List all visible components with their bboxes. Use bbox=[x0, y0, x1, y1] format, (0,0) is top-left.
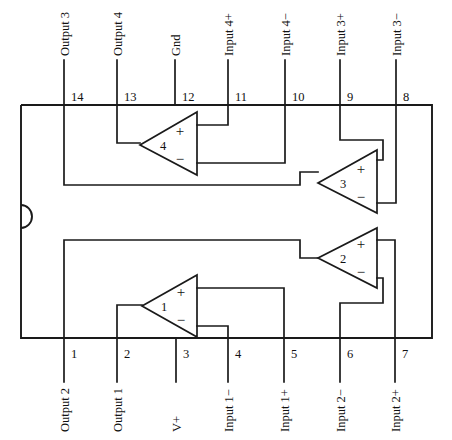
top-pin-numbers: 14 13 12 11 10 9 8 bbox=[71, 90, 409, 104]
schematic-canvas: + − 4 + − 3 + − 2 + − 1 14 13 1 bbox=[0, 0, 452, 440]
wire-pin8-to-amp3-minus bbox=[377, 105, 396, 203]
connection-diagram: + − 4 + − 3 + − 2 + − 1 14 13 1 bbox=[0, 0, 452, 440]
amp4-plus-sign: + bbox=[176, 123, 184, 139]
pin-number-9: 9 bbox=[347, 90, 353, 104]
amp3-plus-sign: + bbox=[357, 161, 365, 177]
pin-number-8: 8 bbox=[403, 90, 409, 104]
top-pin-labels: Output 3 Output 4 Gnd Input 4+ Input 4− … bbox=[58, 11, 404, 56]
pin-number-7: 7 bbox=[402, 347, 408, 361]
pin-label-output-2: Output 2 bbox=[58, 388, 72, 432]
amp4-minus-sign: − bbox=[176, 151, 184, 167]
pin-label-output-3: Output 3 bbox=[58, 12, 72, 56]
pin-label-input-3-plus: Input 3+ bbox=[334, 13, 348, 56]
amp2-symbol: + − 2 bbox=[318, 228, 377, 288]
amp4-number: 4 bbox=[160, 139, 167, 153]
internal-wiring bbox=[64, 105, 396, 338]
wire-pin1-to-amp2-out bbox=[64, 240, 318, 338]
amp3-symbol: + − 3 bbox=[318, 150, 377, 213]
bottom-pin-labels: Output 2 Output 1 V+ Input 1− Input 1+ I… bbox=[58, 388, 403, 432]
amp4-symbol: + − 4 bbox=[140, 112, 197, 175]
pin-label-input-3-minus: Input 3− bbox=[390, 13, 404, 56]
bottom-pin-leads bbox=[64, 338, 395, 382]
amp2-plus-sign: + bbox=[357, 236, 365, 252]
pin-label-input-4-minus: Input 4− bbox=[279, 13, 293, 56]
pin-label-v-plus: V+ bbox=[170, 416, 184, 432]
pin-number-1: 1 bbox=[71, 347, 77, 361]
pin-number-5: 5 bbox=[291, 347, 297, 361]
pin-number-10: 10 bbox=[292, 90, 305, 104]
wire-pin2-to-amp1-out bbox=[117, 305, 142, 338]
pin-number-12: 12 bbox=[182, 90, 195, 104]
amp1-symbol: + − 1 bbox=[142, 275, 197, 337]
amp2-minus-sign: − bbox=[357, 264, 365, 280]
pin-label-input-2-minus: Input 2− bbox=[334, 389, 348, 432]
wire-pin11-to-amp4-plus bbox=[197, 105, 228, 125]
pin-label-input-4-plus: Input 4+ bbox=[222, 13, 236, 56]
pin-number-3: 3 bbox=[183, 347, 189, 361]
pin-number-4: 4 bbox=[235, 347, 242, 361]
amp1-plus-sign: + bbox=[177, 284, 185, 300]
wire-pin7-to-amp2-plus bbox=[377, 240, 395, 338]
pin-label-input-1-plus: Input 1+ bbox=[278, 389, 292, 432]
amp3-minus-sign: − bbox=[357, 189, 365, 205]
wire-pin4-to-amp1-minus bbox=[197, 326, 228, 338]
pin-number-6: 6 bbox=[347, 347, 353, 361]
pin-number-11: 11 bbox=[235, 90, 247, 104]
pin-label-gnd: Gnd bbox=[169, 34, 183, 56]
pin-label-input-1-minus: Input 1− bbox=[222, 389, 236, 432]
wire-pin14-to-amp3-out bbox=[64, 105, 318, 185]
wire-pin5-to-amp1-plus bbox=[197, 288, 284, 338]
wire-pin13-to-amp4-out bbox=[117, 105, 140, 143]
pin-number-13: 13 bbox=[124, 90, 137, 104]
pin-number-2: 2 bbox=[124, 347, 130, 361]
pin-label-output-1: Output 1 bbox=[111, 388, 125, 432]
package-notch bbox=[21, 205, 32, 228]
amp1-minus-sign: − bbox=[177, 312, 185, 328]
amp2-number: 2 bbox=[340, 252, 346, 266]
amp3-number: 3 bbox=[340, 177, 346, 191]
wire-pin10-to-amp4-minus bbox=[197, 105, 285, 163]
amp1-number: 1 bbox=[161, 300, 167, 314]
pin-label-output-4: Output 4 bbox=[111, 11, 125, 56]
pin-label-input-2-plus: Input 2+ bbox=[389, 389, 403, 432]
pin-number-14: 14 bbox=[71, 90, 84, 104]
bottom-pin-numbers: 1 2 3 4 5 6 7 bbox=[71, 347, 408, 361]
